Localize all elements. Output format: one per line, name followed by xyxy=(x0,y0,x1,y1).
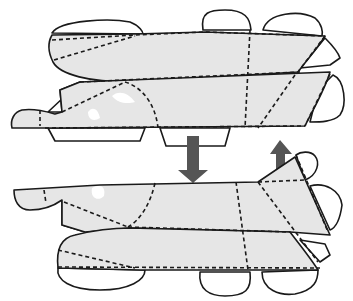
bottom-upper-panel xyxy=(14,157,330,235)
top-tab-roof-bump-1 xyxy=(202,10,251,30)
diagram-canvas xyxy=(0,0,353,301)
top-lower-panel xyxy=(11,72,330,128)
bottom-tab-front-wheel-2 xyxy=(262,270,318,294)
top-tab-under-1 xyxy=(48,128,145,141)
papercraft-diagram xyxy=(0,0,353,301)
top-tab-rear-bump xyxy=(52,20,143,34)
top-piece xyxy=(11,10,344,146)
bottom-tab-rear-wheel xyxy=(58,268,145,290)
bottom-tab-front-wheel-1 xyxy=(200,272,251,296)
bottom-lower-panel xyxy=(58,228,318,270)
top-tab-roof-bump-2 xyxy=(263,14,322,36)
bottom-piece xyxy=(14,152,342,296)
